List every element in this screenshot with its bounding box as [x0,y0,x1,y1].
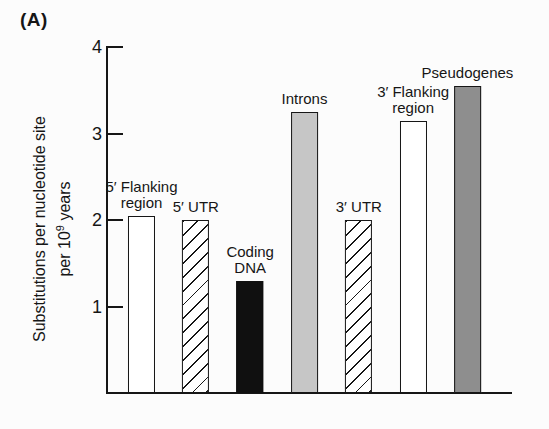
bar-group-5-prime-utr: 5′ UTR [173,199,219,393]
bar-coding-dna [237,281,264,393]
y-axis-label-line1: Substitutions per nucleotide site [29,116,50,342]
y-axis-label: Substitutions per nucleotide site per 10… [29,116,75,342]
y-tick-mark [106,133,123,135]
bar-3-prime-utr [345,220,372,393]
bar-5-prime-flanking-region [128,216,155,393]
panel-label: (A) [20,9,48,31]
y-tick-4: 4 [76,38,123,56]
bar-group-3-prime-utr: 3′ UTR [336,199,382,393]
y-tick-label: 2 [76,211,102,229]
bar-pseudogenes [454,86,481,393]
bar-label: 3′ UTR [336,199,382,215]
bar-label: Pseudogenes [422,65,514,81]
y-tick-label: 4 [76,38,102,56]
bar-group-introns: Introns [282,91,328,393]
bar-label: Coding DNA [226,244,274,276]
y-axis-label-line2: per 109 years [50,116,75,342]
superscript-exponent: 9 [54,225,66,231]
bar-5-prime-utr [182,220,209,393]
y-tick-label: 3 [76,125,102,143]
bar-label: 5′ UTR [173,199,219,215]
bar-chart-figure: (A) Substitutions per nucleotide site pe… [0,0,549,429]
y-tick-mark [106,46,123,48]
bar-group-5-prime-flanking-region: 5′ Flanking region [105,179,177,393]
bar-introns [291,112,318,393]
bar-group-coding-dna: Coding DNA [226,244,274,393]
bar-label: 5′ Flanking region [105,179,177,211]
y-tick-label: 1 [76,298,102,316]
bar-group-pseudogenes: Pseudogenes [422,65,514,393]
bar-label: Introns [282,91,328,107]
y-tick-3: 3 [76,125,123,143]
